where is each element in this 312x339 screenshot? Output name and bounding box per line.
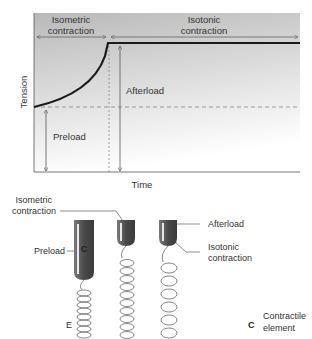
x-axis-label: Time [132, 179, 153, 190]
elastic-symbol: E [66, 320, 72, 330]
muscle-model: C [12, 195, 306, 339]
isometric-phase-label-1: Isometric [52, 14, 91, 25]
spring-3 [161, 263, 177, 338]
legend-text-1: Contractile [263, 311, 306, 321]
tension-time-graph: Isometric contraction Isotonic contracti… [18, 13, 300, 190]
contractile-element-isometric [117, 220, 135, 246]
legend-text-2: element [263, 323, 296, 333]
isometric-phase-label-2: contraction [48, 25, 94, 36]
isotonic-phase-label-1: Isotonic [188, 14, 221, 25]
y-axis-label: Tension [18, 76, 29, 109]
spring-1 [77, 290, 91, 338]
legend-symbol: C [248, 320, 255, 330]
afterload-model-label: Afterload [208, 219, 244, 229]
preload-label: Preload [53, 131, 86, 142]
spring-1-lead [80, 280, 84, 290]
contractile-element-preload: C [74, 220, 94, 280]
afterload-label: Afterload [126, 85, 164, 96]
contractile-symbol: C [81, 244, 88, 254]
isotonic-label-2: contraction [208, 253, 252, 263]
isotonic-phase-label-2: contraction [181, 25, 227, 36]
diagram-canvas: Isometric contraction Isotonic contracti… [0, 0, 312, 339]
spring-2 [120, 260, 134, 339]
preload-model-label: Preload [34, 246, 65, 256]
isometric-label-1: Isometric [15, 195, 52, 205]
isometric-label-2: contraction [12, 206, 56, 216]
isotonic-label-1: Isotonic [208, 242, 240, 252]
contractile-element-isotonic [159, 220, 177, 246]
